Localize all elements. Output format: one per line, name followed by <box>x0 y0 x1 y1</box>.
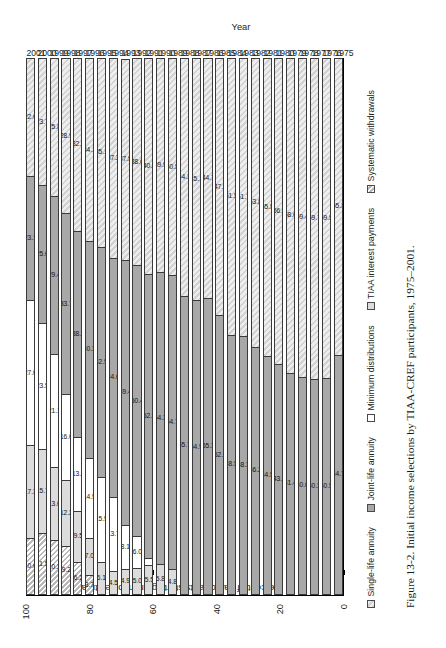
bar-segment-minimum[interactable]: 6.0 <box>132 536 141 568</box>
bar-segment-joint[interactable]: 49.4 <box>121 260 130 525</box>
bar-segment-single[interactable]: 25.8 <box>50 58 59 196</box>
bar-segment-single[interactable]: 45.1 <box>192 58 201 300</box>
bar-segment-single[interactable]: 47.9 <box>215 58 224 315</box>
bar-segment-single[interactable]: 51.7 <box>239 58 248 336</box>
bar-segment-tiaa[interactable]: 4.8 <box>168 569 177 595</box>
bar-segment-single[interactable]: 51.5 <box>227 58 236 335</box>
bar-segment-tiaa[interactable]: 6.1 <box>97 562 106 595</box>
bar-segment-tiaa[interactable]: 5.0 <box>132 568 141 595</box>
bar-segment-single[interactable]: 40.5 <box>168 58 177 275</box>
bar-segment-minimum[interactable] <box>144 559 153 566</box>
table-row[interactable]: 48.551.5 <box>227 58 236 595</box>
bar-segment-minimum[interactable]: 14.9 <box>85 458 94 538</box>
table-row[interactable]: 46.253.8 <box>251 58 260 595</box>
bar-segment-joint[interactable]: 25.6 <box>38 185 47 322</box>
bar-segment-tiaa[interactable]: 9.5 <box>73 511 82 562</box>
bar-segment-joint[interactable]: 55.7 <box>180 296 189 595</box>
table-row[interactable]: 55.744.3 <box>180 58 189 595</box>
bar-segment-single[interactable]: 44.7 <box>203 58 212 298</box>
bar-segment-minimum[interactable]: 27.0 <box>26 300 35 445</box>
bar-segment-joint[interactable]: 50.4 <box>132 265 141 536</box>
table-row[interactable]: 43.156.9 <box>274 58 283 595</box>
bar-segment-single[interactable]: 22.0 <box>26 58 35 176</box>
bar-segment-joint[interactable]: 55.3 <box>203 298 212 595</box>
table-row[interactable]: 40.359.7 <box>310 58 319 595</box>
table-row[interactable]: 40.559.5 <box>322 58 331 595</box>
bar-segment-joint[interactable]: 44.7 <box>334 355 343 595</box>
bar-segment-joint[interactable]: 48.3 <box>239 336 248 595</box>
table-row[interactable]: 5.06.050.438.6 <box>132 58 141 595</box>
bar-segment-joint[interactable]: 52.1 <box>215 315 224 595</box>
bar-segment-joint[interactable]: 40.3 <box>85 241 94 457</box>
bar-segment-single[interactable]: 34.1 <box>85 58 94 241</box>
table-row[interactable]: 4.513.744.637.2 <box>109 58 118 595</box>
bar-segment-single[interactable]: 58.6 <box>286 58 295 373</box>
table-row[interactable]: 10.213.621.129.425.8 <box>50 58 59 595</box>
table-row[interactable]: 11.515.723.525.623.7 <box>38 58 47 595</box>
legend-item-single[interactable]: Single-life annuity <box>366 527 376 608</box>
bar-segment-joint[interactable]: 33.7 <box>61 213 70 394</box>
table-row[interactable]: 3.77.014.940.334.1 <box>85 58 94 595</box>
bar-segment-joint[interactable]: 43.1 <box>274 364 283 595</box>
bar-segment-systematic[interactable]: 9.2 <box>61 546 70 595</box>
bar-segment-single[interactable]: 55.3 <box>334 58 343 355</box>
bar-segment-single[interactable]: 44.3 <box>180 58 189 296</box>
bar-segment-single[interactable]: 38.6 <box>132 58 141 265</box>
bar-segment-single[interactable]: 35.1 <box>97 58 106 246</box>
legend-item-joint[interactable]: Joint-life annuity <box>366 437 376 512</box>
table-row[interactable]: 6.29.513.738.532.2 <box>73 58 82 595</box>
bar-segment-joint[interactable]: 40.6 <box>298 377 307 595</box>
bar-segment-minimum[interactable]: 21.1 <box>50 354 59 467</box>
legend-item-minimum[interactable]: Minimum distributions <box>366 325 376 422</box>
bar-segment-single[interactable]: 59.7 <box>310 58 319 379</box>
bar-segment-joint[interactable]: 48.5 <box>227 335 236 595</box>
bar-segment-tiaa[interactable]: 4.5 <box>109 571 118 595</box>
bar-segment-systematic[interactable]: 10.2 <box>50 540 59 595</box>
table-row[interactable]: 44.555.5 <box>263 58 272 595</box>
bar-segment-tiaa[interactable]: 12.2 <box>61 480 70 546</box>
bar-segment-systematic[interactable]: 10.6 <box>26 538 35 595</box>
bar-segment-joint[interactable]: 42.9 <box>97 247 106 477</box>
table-row[interactable]: 55.344.7 <box>203 58 212 595</box>
bar-segment-single[interactable]: 59.4 <box>298 58 307 377</box>
bar-segment-tiaa[interactable]: 7.0 <box>85 538 94 576</box>
table-row[interactable]: 9.212.216.033.728.9 <box>61 58 70 595</box>
table-row[interactable]: 10.617.327.023.122.0 <box>26 58 35 595</box>
bar-segment-joint[interactable]: 40.3 <box>310 379 319 595</box>
bar-segment-joint[interactable]: 52.9 <box>144 274 153 558</box>
table-row[interactable]: 6.115.942.935.1 <box>97 58 106 595</box>
bar-segment-tiaa[interactable]: 5.5 <box>144 565 153 595</box>
bar-segment-tiaa[interactable]: 4.9 <box>121 569 130 595</box>
bar-segment-single[interactable]: 59.5 <box>322 58 331 378</box>
bar-segment-joint[interactable]: 41.4 <box>286 373 295 595</box>
bar-segment-systematic[interactable]: 3.7 <box>85 575 94 595</box>
bar-segment-single[interactable]: 37.2 <box>109 58 118 258</box>
bar-segment-joint[interactable]: 23.1 <box>26 176 35 300</box>
table-row[interactable]: 4.98.149.437.5 <box>121 58 130 595</box>
bar-segment-single[interactable]: 39.9 <box>156 58 165 272</box>
bar-segment-minimum[interactable]: 8.1 <box>121 525 130 568</box>
bar-segment-tiaa[interactable]: 15.7 <box>38 449 47 533</box>
bar-segment-joint[interactable]: 40.5 <box>322 378 331 595</box>
bar-segment-single[interactable]: 53.8 <box>251 58 260 347</box>
bar-segment-systematic[interactable]: 11.5 <box>38 533 47 595</box>
bar-segment-tiaa[interactable]: 17.3 <box>26 445 35 538</box>
bar-segment-minimum[interactable]: 16.0 <box>61 394 70 480</box>
bar-segment-joint[interactable]: 38.5 <box>73 231 82 438</box>
table-row[interactable]: 54.945.1 <box>192 58 201 595</box>
bar-segment-tiaa[interactable]: 5.8 <box>156 564 165 595</box>
table-row[interactable]: 4.854.740.5 <box>168 58 177 595</box>
bar-segment-joint[interactable]: 54.7 <box>168 276 177 570</box>
bar-segment-joint[interactable]: 44.5 <box>263 356 272 595</box>
table-row[interactable]: 48.351.7 <box>239 58 248 595</box>
table-row[interactable]: 40.659.4 <box>298 58 307 595</box>
table-row[interactable]: 41.458.6 <box>286 58 295 595</box>
bar-segment-single[interactable]: 56.9 <box>274 58 283 364</box>
legend-item-systematic[interactable]: Systematic withdrawals <box>366 90 376 193</box>
table-row[interactable]: 5.552.940.3 <box>144 58 153 595</box>
bar-segment-single[interactable]: 40.3 <box>144 58 153 274</box>
legend-item-tiaa[interactable]: TIAA interest payments <box>366 208 376 310</box>
bar-segment-single[interactable]: 28.9 <box>61 58 70 213</box>
table-row[interactable]: 5.854.339.9 <box>156 58 165 595</box>
bar-segment-minimum[interactable]: 15.9 <box>97 477 106 562</box>
